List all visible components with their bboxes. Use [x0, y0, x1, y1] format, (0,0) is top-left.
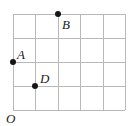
point-b — [55, 11, 61, 17]
coordinate-grid-figure: BAD O — [0, 0, 138, 126]
point-a — [10, 59, 16, 65]
grid-line-vertical — [125, 14, 126, 110]
point-b-label: B — [62, 18, 70, 31]
grid-line-horizontal — [13, 86, 125, 87]
grid-line-vertical — [58, 14, 59, 110]
point-a-label: A — [17, 48, 25, 61]
point-d-label: D — [40, 72, 49, 85]
grid-line-horizontal — [13, 62, 125, 63]
point-d — [32, 83, 38, 89]
grid-line-horizontal — [13, 110, 125, 111]
grid-line-vertical — [35, 14, 36, 110]
grid-line-vertical — [103, 14, 104, 110]
grid-line-horizontal — [13, 38, 125, 39]
grid-line-vertical — [80, 14, 81, 110]
grid-line-horizontal — [13, 14, 125, 15]
origin-label: O — [6, 112, 15, 125]
